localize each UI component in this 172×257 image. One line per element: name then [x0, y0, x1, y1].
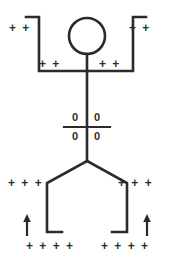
charge-label-hip-right: + + +	[118, 177, 153, 189]
charge-label-arm-right-inner: + +	[99, 58, 121, 70]
charge-label-torso-top-left: 0	[72, 112, 78, 123]
charge-label-arm-left-outer: + +	[9, 22, 31, 34]
charge-label-foot-right: + + + +	[101, 240, 150, 252]
left-leg-and-foot	[47, 161, 87, 232]
left-up-arrow-icon	[23, 214, 31, 236]
right-leg-and-foot	[87, 161, 127, 232]
figure-canvas	[0, 0, 172, 257]
charge-label-torso-top-right: 0	[94, 112, 100, 123]
charge-label-torso-bottom-left: 0	[72, 131, 78, 142]
charge-label-torso-bottom-right: 0	[94, 131, 100, 142]
stick-figure-diagram: + + + + + + + + + + + + + + + + + + + + …	[0, 0, 172, 257]
charge-label-arm-right-outer: + +	[129, 22, 151, 34]
charge-label-hip-left: + + +	[8, 177, 43, 189]
right-up-arrow-icon	[143, 214, 151, 236]
head-circle	[69, 18, 105, 54]
charge-label-arm-left-inner: + +	[39, 58, 61, 70]
charge-label-foot-left: + + + +	[26, 240, 75, 252]
